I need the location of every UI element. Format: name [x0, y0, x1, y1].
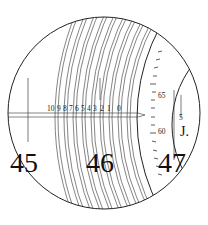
svg-text:60: 60	[158, 127, 166, 136]
index-line	[6, 113, 145, 117]
svg-text:45: 45	[10, 147, 38, 178]
svg-text:3: 3	[93, 104, 97, 113]
svg-text:4: 4	[87, 104, 91, 113]
svg-text:6: 6	[75, 104, 79, 113]
svg-text:2: 2	[100, 104, 104, 113]
degree-labels: 45 46 47	[10, 147, 186, 178]
index-mark: J.	[180, 124, 189, 139]
svg-text:46: 46	[86, 147, 114, 178]
svg-text:7: 7	[69, 104, 73, 113]
svg-text:10: 10	[47, 104, 55, 113]
microscope-field-of-view: 10 9 8 7 6 5 4 3 2 1 0 65 60 5 J. 45 46 …	[0, 0, 208, 225]
svg-text:9: 9	[57, 104, 61, 113]
svg-text:5: 5	[81, 104, 85, 113]
svg-text:47: 47	[158, 147, 186, 178]
svg-text:5: 5	[179, 113, 183, 122]
inner-boundary-arc	[172, 27, 208, 223]
svg-text:65: 65	[158, 91, 166, 100]
micrometer-labels: 10 9 8 7 6 5 4 3 2 1 0	[47, 104, 121, 113]
svg-text:1: 1	[107, 104, 111, 113]
svg-text:0: 0	[117, 104, 121, 113]
svg-text:8: 8	[63, 104, 67, 113]
